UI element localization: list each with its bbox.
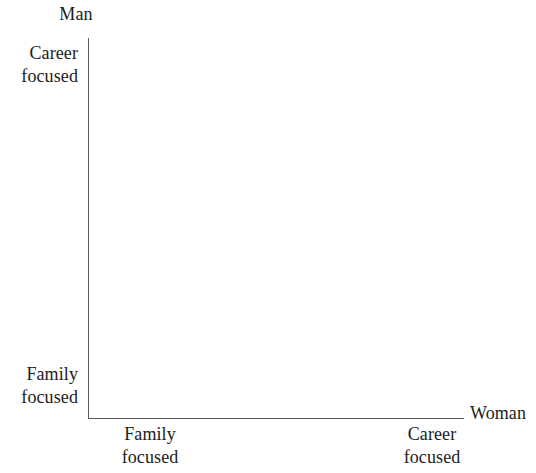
x-axis-high-pole-line2: focused bbox=[367, 446, 497, 469]
y-axis-low-pole-label: Family focused bbox=[0, 363, 78, 409]
y-axis-line bbox=[88, 38, 89, 419]
framework-figure: Man Woman Career focused Family focused … bbox=[0, 0, 536, 473]
x-axis-high-pole-line1: Career bbox=[367, 423, 497, 446]
y-axis-low-pole-line1: Family bbox=[0, 363, 78, 386]
x-axis-low-pole-line1: Family bbox=[85, 423, 215, 446]
y-axis-high-pole-line1: Career bbox=[0, 42, 78, 65]
x-axis-title: Woman bbox=[470, 402, 526, 425]
x-axis-low-pole-line2: focused bbox=[85, 446, 215, 469]
x-axis-line bbox=[88, 418, 464, 419]
y-axis-high-pole-label: Career focused bbox=[0, 42, 78, 88]
y-axis-low-pole-line2: focused bbox=[0, 386, 78, 409]
x-axis-low-pole-label: Family focused bbox=[85, 423, 215, 469]
y-axis-high-pole-line2: focused bbox=[0, 65, 78, 88]
x-axis-high-pole-label: Career focused bbox=[367, 423, 497, 469]
y-axis-title: Man bbox=[46, 3, 106, 26]
